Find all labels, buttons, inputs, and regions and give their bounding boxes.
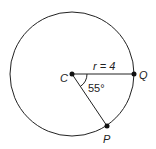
radius-label: r = 4	[93, 60, 115, 72]
point-p-label: P	[103, 133, 111, 145]
angle-label: 55°	[88, 82, 105, 94]
point-p-dot	[105, 124, 110, 129]
angle-arc	[80, 74, 87, 86]
point-c-dot	[70, 72, 75, 77]
point-q-dot	[132, 72, 137, 77]
point-q-label: Q	[139, 69, 148, 81]
point-c-label: C	[60, 72, 68, 84]
circle-diagram: C Q P r = 4 55°	[0, 0, 156, 149]
